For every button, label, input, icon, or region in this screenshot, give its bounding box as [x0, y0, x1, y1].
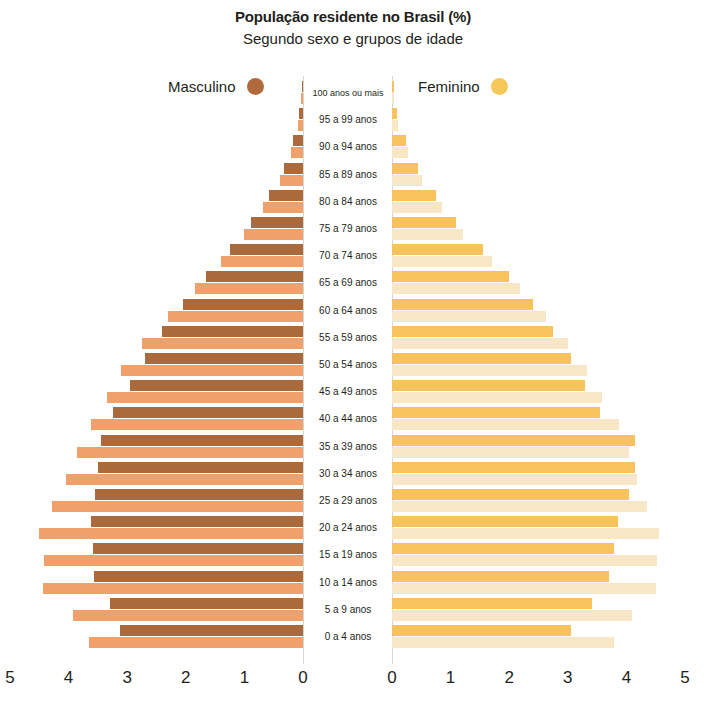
x-axis-tick-right: 2	[504, 668, 513, 688]
table-row: 60 a 64 anos	[0, 298, 706, 324]
x-axis-tick-left: 5	[5, 668, 14, 688]
age-group-label: 60 a 64 anos	[304, 298, 392, 324]
bar-male-dark	[101, 435, 303, 446]
bar-male-light	[244, 229, 303, 240]
bar-female-light	[392, 120, 398, 131]
x-axis-tick-left: 1	[240, 668, 249, 688]
bar-male-dark	[120, 625, 303, 636]
x-axis-tick-left: 0	[298, 668, 307, 688]
table-row: 30 a 34 anos	[0, 461, 706, 487]
age-group-label: 95 a 99 anos	[304, 107, 392, 133]
bar-female-dark	[392, 571, 609, 582]
bar-female-dark	[392, 244, 483, 255]
table-row: 70 a 74 anos	[0, 243, 706, 269]
x-axis-tick-right: 3	[563, 668, 572, 688]
age-group-label: 30 a 34 anos	[304, 461, 392, 487]
bar-female-dark	[392, 271, 509, 282]
table-row: 20 a 24 anos	[0, 515, 706, 541]
bar-male-light	[91, 419, 303, 430]
bar-male-dark	[91, 516, 303, 527]
bar-male-light	[39, 528, 303, 539]
bar-female-dark	[392, 435, 635, 446]
bar-male-dark	[302, 81, 303, 92]
age-group-label: 10 a 14 anos	[304, 570, 392, 596]
bar-male-dark	[95, 489, 303, 500]
table-row: 25 a 29 anos	[0, 488, 706, 514]
bar-female-light	[392, 637, 614, 648]
bar-male-light	[44, 555, 303, 566]
table-row: 85 a 89 anos	[0, 162, 706, 188]
table-row: 5 a 9 anos	[0, 597, 706, 623]
bar-female-light	[392, 447, 629, 458]
bar-female-light	[392, 256, 492, 267]
bar-female-dark	[392, 299, 533, 310]
bar-male-dark	[251, 217, 303, 228]
bar-female-light	[392, 147, 408, 158]
bar-female-light	[392, 283, 520, 294]
bar-male-light	[52, 501, 303, 512]
bar-male-dark	[293, 135, 303, 146]
age-group-label: 35 a 39 anos	[304, 434, 392, 460]
bar-female-dark	[392, 163, 418, 174]
bar-male-dark	[110, 598, 303, 609]
age-group-label: 65 a 69 anos	[304, 270, 392, 296]
x-axis-tick-right: 1	[446, 668, 455, 688]
bar-male-light	[142, 338, 303, 349]
bar-female-light	[392, 311, 546, 322]
bar-male-dark	[183, 299, 303, 310]
bar-female-light	[392, 338, 568, 349]
bar-female-dark	[392, 543, 614, 554]
bar-female-light	[392, 202, 442, 213]
x-axis-tick-right: 0	[387, 668, 396, 688]
bar-female-dark	[392, 598, 592, 609]
bar-male-light	[73, 610, 303, 621]
x-axis-tick-right: 4	[622, 668, 631, 688]
plot-area: 100 anos ou mais95 a 99 anos90 a 94 anos…	[0, 0, 706, 716]
bar-female-light	[392, 555, 657, 566]
bar-female-dark	[392, 217, 456, 228]
age-group-label: 100 anos ou mais	[304, 80, 392, 106]
bar-female-dark	[392, 81, 394, 92]
bar-female-light	[392, 501, 647, 512]
table-row: 100 anos ou mais	[0, 80, 706, 106]
bar-female-dark	[392, 462, 635, 473]
bar-female-light	[392, 93, 394, 104]
age-group-label: 55 a 59 anos	[304, 325, 392, 351]
bar-male-light	[66, 474, 303, 485]
bar-female-dark	[392, 108, 397, 119]
bar-female-light	[392, 175, 422, 186]
age-group-label: 5 a 9 anos	[304, 597, 392, 623]
age-group-label: 0 a 4 anos	[304, 624, 392, 650]
x-axis-tick-left: 4	[64, 668, 73, 688]
bar-female-light	[392, 474, 637, 485]
bar-male-light	[291, 147, 303, 158]
table-row: 45 a 49 anos	[0, 379, 706, 405]
bar-male-light	[195, 283, 303, 294]
x-axis-tick-right: 5	[680, 668, 689, 688]
bar-male-dark	[230, 244, 303, 255]
bar-male-light	[298, 120, 303, 131]
bar-male-light	[221, 256, 303, 267]
bar-male-dark	[162, 326, 303, 337]
age-group-label: 70 a 74 anos	[304, 243, 392, 269]
bar-male-light	[77, 447, 303, 458]
age-group-label: 50 a 54 anos	[304, 352, 392, 378]
age-group-label: 80 a 84 anos	[304, 189, 392, 215]
bar-female-dark	[392, 380, 585, 391]
age-group-label: 45 a 49 anos	[304, 379, 392, 405]
table-row: 90 a 94 anos	[0, 134, 706, 160]
age-group-label: 15 a 19 anos	[304, 542, 392, 568]
table-row: 50 a 54 anos	[0, 352, 706, 378]
x-axis-tick-left: 2	[181, 668, 190, 688]
bar-male-dark	[98, 462, 303, 473]
table-row: 65 a 69 anos	[0, 270, 706, 296]
bar-male-dark	[94, 571, 303, 582]
bar-female-dark	[392, 326, 553, 337]
bar-male-dark	[145, 353, 303, 364]
bar-female-dark	[392, 190, 436, 201]
bar-male-dark	[113, 407, 303, 418]
bar-male-dark	[206, 271, 303, 282]
population-pyramid-chart: População residente no Brasil (%) Segund…	[0, 0, 706, 716]
age-group-label: 25 a 29 anos	[304, 488, 392, 514]
bar-male-dark	[93, 543, 303, 554]
